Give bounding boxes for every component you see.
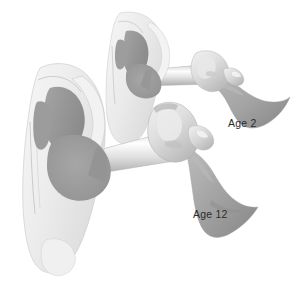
label-age-2: Age 2 (228, 117, 256, 129)
label-age-12: Age 12 (193, 208, 227, 220)
ear-anatomy-illustration: Age 2 Age 12 (0, 0, 299, 292)
illustration-canvas: Age 2 Age 12 (0, 0, 299, 292)
